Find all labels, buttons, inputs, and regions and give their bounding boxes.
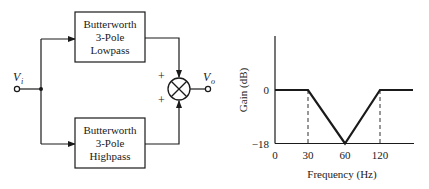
block-diagram: V i Butterworth 3-Pole Lowpass Butterwor…	[13, 12, 215, 168]
highpass-block: Butterworth 3-Pole Highpass	[75, 118, 145, 168]
lowpass-block: Butterworth 3-Pole Lowpass	[75, 12, 145, 62]
summer-plus-top: +	[158, 69, 165, 83]
summing-junction	[168, 78, 190, 100]
gain-chart: 0 −18 0 30 60 120 Frequency (Hz) Gain (d…	[237, 36, 414, 181]
input-terminal	[14, 86, 19, 91]
output-subscript: o	[211, 77, 215, 86]
y-axis-label: Gain (dB)	[237, 68, 250, 113]
x-axis-label: Frequency (Hz)	[307, 168, 377, 181]
x-tick-label-0: 0	[272, 149, 278, 161]
series-line-notch-response	[275, 90, 413, 144]
highpass-line-3: Highpass	[90, 150, 131, 162]
figure: V i Butterworth 3-Pole Lowpass Butterwor…	[0, 0, 429, 189]
y-tick-label-0: 0	[264, 84, 270, 96]
highpass-line-1: Butterworth	[83, 124, 137, 136]
x-tick-label-60: 60	[340, 149, 352, 161]
wire-highpass-to-summer	[145, 101, 179, 144]
lowpass-line-3: Lowpass	[90, 44, 129, 56]
lowpass-line-2: 3-Pole	[96, 31, 125, 43]
highpass-line-2: 3-Pole	[96, 137, 125, 149]
output-terminal	[205, 86, 210, 91]
x-tick-label-30: 30	[303, 149, 315, 161]
y-tick-label-minus-18: −18	[252, 138, 270, 150]
input-subscript: i	[21, 77, 23, 86]
lowpass-line-1: Butterworth	[83, 18, 137, 30]
x-tick-label-120: 120	[372, 149, 389, 161]
summer-plus-bottom: +	[158, 93, 165, 107]
